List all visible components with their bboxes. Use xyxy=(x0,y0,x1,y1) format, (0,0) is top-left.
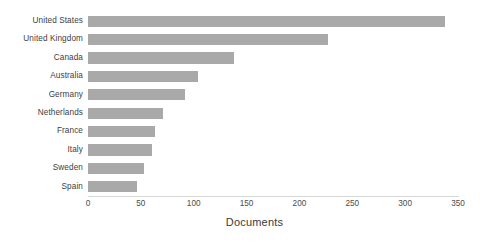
category-label: Australia xyxy=(50,67,83,85)
bar xyxy=(88,16,445,27)
category-label: United Kingdom xyxy=(23,30,83,48)
bar-chart: United StatesUnited KingdomCanadaAustral… xyxy=(0,0,487,246)
plot-area: United StatesUnited KingdomCanadaAustral… xyxy=(88,12,458,196)
category-label: France xyxy=(57,122,83,140)
category-label: United States xyxy=(33,12,83,30)
bar-row: Sweden xyxy=(88,159,458,177)
bar-row: Netherlands xyxy=(88,104,458,122)
category-label: Sweden xyxy=(53,159,83,177)
category-label: Netherlands xyxy=(38,104,83,122)
bar xyxy=(88,144,152,155)
bar xyxy=(88,108,163,119)
bar xyxy=(88,89,185,100)
category-label: Germany xyxy=(49,86,83,104)
x-tick-label: 150 xyxy=(240,199,254,208)
x-tick-label: 100 xyxy=(187,199,201,208)
x-axis-line xyxy=(88,196,459,197)
x-tick-label: 50 xyxy=(136,199,145,208)
x-tick-label: 250 xyxy=(345,199,359,208)
x-tick-label: 350 xyxy=(451,199,465,208)
category-label: Spain xyxy=(62,178,83,196)
bar xyxy=(88,71,198,82)
x-tick-label: 200 xyxy=(293,199,307,208)
category-label: Canada xyxy=(54,49,83,67)
bar xyxy=(88,52,234,63)
bar xyxy=(88,163,144,174)
bar-row: France xyxy=(88,122,458,140)
bar-row: United Kingdom xyxy=(88,30,458,48)
bar-row: Australia xyxy=(88,67,458,85)
bar-row: Canada xyxy=(88,49,458,67)
bar-row: Italy xyxy=(88,141,458,159)
bar xyxy=(88,126,155,137)
category-label: Italy xyxy=(67,141,83,159)
x-tick-label: 300 xyxy=(398,199,412,208)
bar-row: Spain xyxy=(88,178,458,196)
x-axis-title-label: Documents xyxy=(226,216,283,228)
x-axis-title: Documents xyxy=(0,216,487,228)
bar xyxy=(88,34,328,45)
bar-row: Germany xyxy=(88,86,458,104)
bar xyxy=(88,181,137,192)
bar-row: United States xyxy=(88,12,458,30)
x-tick-label: 0 xyxy=(86,199,91,208)
